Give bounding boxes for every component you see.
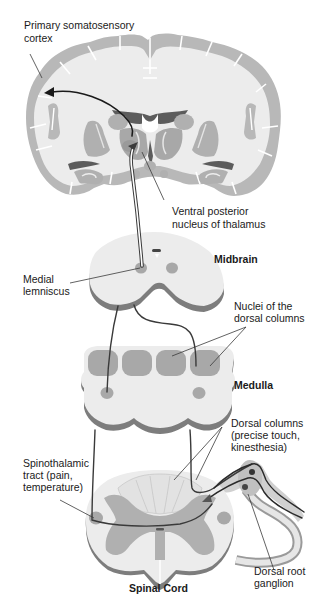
central-canal [156,528,164,531]
lateral-tract-right [217,512,231,525]
medulla-tract-right [193,387,206,399]
medial-lemniscus-right [166,263,178,274]
brain-coronal-section [26,34,281,196]
label-nuclei-dorsal-columns: Nuclei of the dorsal columns [234,300,305,324]
dorsal-column-nucleus-2 [122,350,152,376]
label-ventral-posterior-nucleus: Ventral posterior nucleus of thalamus [172,205,265,230]
label-dorsal-columns: Dorsal columns (precise touch, kinesthes… [231,417,306,453]
label-spinothalamic-tract: Spinothalamic tract (pain, temperature) [23,457,92,493]
label-spinal-cord: Spinal Cord [129,582,188,594]
medulla-section [81,346,235,434]
label-dorsal-root-ganglion: Dorsal root ganglion [254,565,308,589]
dorsal-column-nucleus-3 [156,350,186,376]
midbrain-surface [89,232,224,306]
cerebral-aqueduct [152,249,161,252]
label-midbrain: Midbrain [214,253,258,265]
label-medial-lemniscus: Medial lemniscus [23,273,70,297]
ganglion-cell-1 [249,469,255,475]
caudate-right [174,114,194,130]
midbrain-section [89,232,224,312]
somatosensory-pathway-diagram: Primary somatosensory cortex Ventral pos… [0,0,322,604]
label-medulla: Medulla [234,379,273,391]
dorsal-column-nucleus-1 [88,350,118,376]
ganglion-cell-2 [242,484,248,490]
dorsal-column-nucleus-4 [190,350,220,376]
